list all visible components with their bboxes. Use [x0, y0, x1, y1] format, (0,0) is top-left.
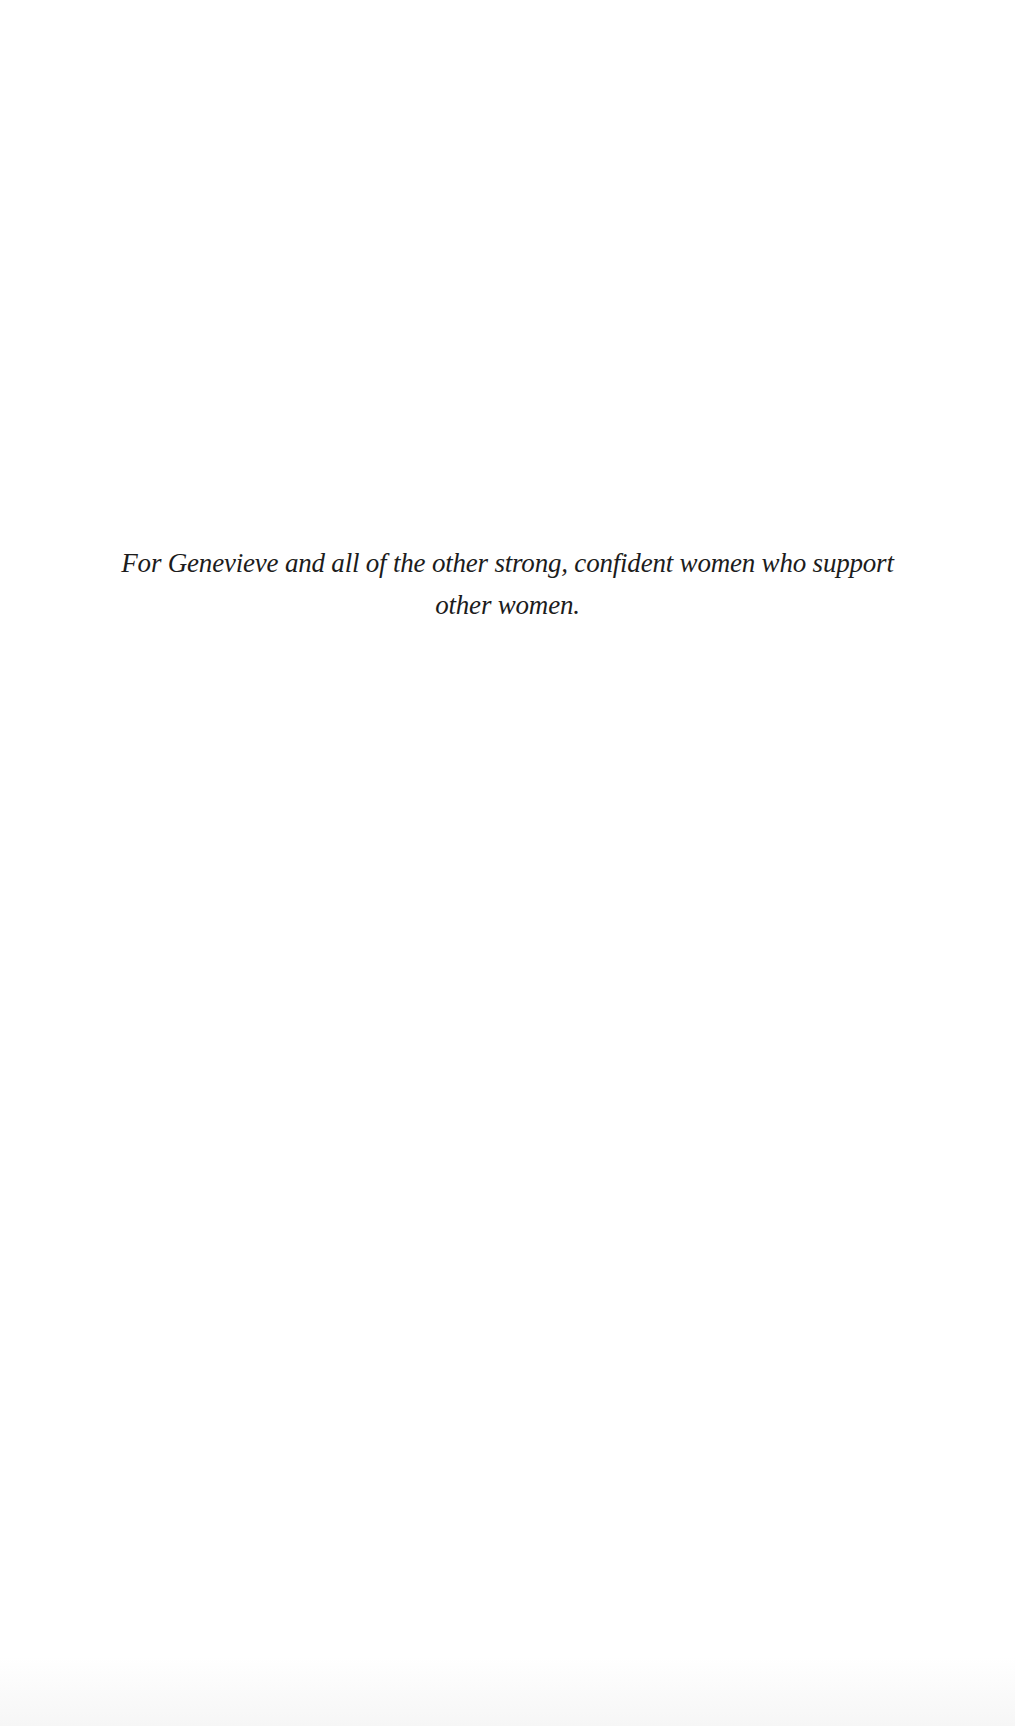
dedication-line-2: other women.	[60, 584, 955, 626]
book-page: For Genevieve and all of the other stron…	[0, 0, 1015, 1726]
dedication-text: For Genevieve and all of the other stron…	[60, 542, 955, 626]
dedication-line-1: For Genevieve and all of the other stron…	[60, 542, 955, 584]
